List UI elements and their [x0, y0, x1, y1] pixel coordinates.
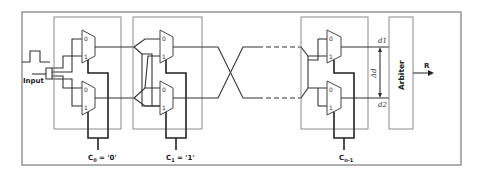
- input-junction: [46, 68, 52, 79]
- stage-n-1: 0 1 0 1 Cn-1: [301, 17, 389, 163]
- mux-input-0-label: 0: [84, 86, 88, 93]
- mux-input-0-label: 0: [329, 86, 333, 93]
- delay-d2-label: d2: [378, 101, 387, 109]
- arrow-down-icon: [378, 93, 382, 98]
- wire: [134, 39, 160, 47]
- mux-input-0-label: 0: [162, 35, 166, 42]
- stage-1-control-label: C1 = '1': [166, 154, 195, 163]
- stage-1: 0 1 0 1 C1 = '1': [133, 17, 202, 163]
- wire: [134, 88, 160, 98]
- mux-input-0-label: 0: [162, 86, 166, 93]
- arrow-up-icon: [378, 47, 382, 52]
- wire: [134, 98, 160, 106]
- mux-input-1-label: 1: [162, 104, 166, 111]
- arbiter-puf-diagram: Input 0 1 0 1 C0 = '0' 0 1: [0, 0, 482, 174]
- arbiter-label: Arbiter: [397, 60, 406, 90]
- delay-d1-label: d1: [378, 37, 387, 45]
- mux-input-0-label: 0: [329, 35, 333, 42]
- wire-in-a: [52, 56, 82, 68]
- mux-input-1-label: 1: [84, 104, 88, 111]
- input-pulse-icon: [22, 51, 50, 62]
- output-label: R: [424, 62, 430, 70]
- wire: [301, 47, 327, 56]
- wire-in-d: [52, 79, 82, 106]
- stage-0: 0 1 0 1 C0 = '0': [54, 17, 134, 163]
- mux-input-1-label: 1: [162, 53, 166, 60]
- wire: [301, 88, 327, 98]
- mux-input-1-label: 1: [329, 53, 333, 60]
- stage-n-1-control-label: Cn-1: [339, 154, 354, 163]
- wire-in-c: [52, 76, 82, 88]
- output-arrow-icon: [428, 70, 434, 76]
- mux-input-1-label: 1: [329, 104, 333, 111]
- delta-d-label: Δd: [370, 68, 378, 79]
- stage-0-control-label: C0 = '0': [88, 154, 117, 163]
- mux-input-0-label: 0: [84, 35, 88, 42]
- mux-input-1-label: 1: [84, 53, 88, 60]
- input-label: Input: [23, 77, 45, 85]
- wire: [308, 39, 318, 60]
